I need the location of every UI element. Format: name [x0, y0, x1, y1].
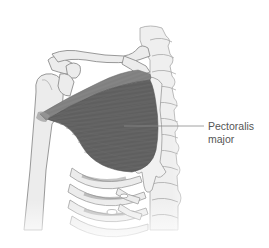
pectoralis-major-label: Pectoralis major: [208, 120, 254, 145]
label-line-1: Pectoralis: [208, 120, 254, 133]
label-line-2: major: [208, 133, 254, 146]
